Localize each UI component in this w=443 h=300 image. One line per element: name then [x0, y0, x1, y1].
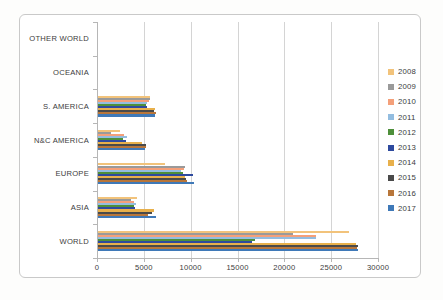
bar-group — [97, 56, 378, 90]
legend-swatch-icon — [388, 69, 394, 75]
legend-label: 2008 — [398, 67, 416, 76]
legend-swatch-icon — [388, 190, 394, 196]
x-axis-label: 25000 — [320, 263, 342, 272]
bar-group — [97, 224, 378, 258]
y-axis-tick — [93, 157, 97, 158]
bar-2017-n-c-america[interactable] — [97, 148, 145, 150]
legend-label: 2009 — [398, 82, 416, 91]
x-axis-tick — [97, 258, 98, 262]
x-axis-tick — [378, 258, 379, 262]
plot-area — [97, 22, 378, 258]
y-axis-label: EUROPE — [1, 169, 89, 178]
chart-screenshot: OTHER WORLDOCEANIAS. AMERICAN&C AMERICAE… — [0, 0, 443, 300]
legend-item-2014[interactable]: 2014 — [388, 155, 434, 170]
legend-swatch-icon — [388, 145, 394, 151]
x-axis-label: 5000 — [135, 263, 153, 272]
legend-label: 2012 — [398, 128, 416, 137]
chart-legend: 2008200920102011201220132014201520162017 — [388, 64, 434, 216]
legend-item-2015[interactable]: 2015 — [388, 170, 434, 185]
bar-2017-world[interactable] — [97, 249, 358, 251]
x-axis-tick — [238, 258, 239, 262]
legend-swatch-icon — [388, 114, 394, 120]
x-axis-label: 0 — [95, 263, 99, 272]
x-axis-label: 15000 — [226, 263, 248, 272]
legend-swatch-icon — [388, 175, 394, 181]
legend-item-2008[interactable]: 2008 — [388, 64, 434, 79]
legend-item-2013[interactable]: 2013 — [388, 140, 434, 155]
legend-item-2010[interactable]: 2010 — [388, 94, 434, 109]
bar-group — [97, 157, 378, 191]
legend-item-2012[interactable]: 2012 — [388, 125, 434, 140]
legend-swatch-icon — [388, 129, 394, 135]
x-axis-tick — [144, 258, 145, 262]
legend-label: 2013 — [398, 143, 416, 152]
x-axis-label: 30000 — [367, 263, 389, 272]
y-axis-tick — [93, 89, 97, 90]
gridline — [378, 22, 379, 258]
y-axis-tick — [93, 56, 97, 57]
legend-swatch-icon — [388, 84, 394, 90]
legend-swatch-icon — [388, 99, 394, 105]
legend-label: 2015 — [398, 173, 416, 182]
x-axis-label: 20000 — [273, 263, 295, 272]
y-axis-label: WORLD — [1, 237, 89, 246]
y-axis-label: S. AMERICA — [1, 102, 89, 111]
x-axis-tick — [284, 258, 285, 262]
bar-group — [97, 22, 378, 56]
y-axis-tick — [93, 191, 97, 192]
bar-2017-asia[interactable] — [97, 216, 156, 218]
legend-swatch-icon — [388, 160, 394, 166]
legend-swatch-icon — [388, 205, 394, 211]
y-axis-tick — [93, 22, 97, 23]
y-axis-tick — [93, 224, 97, 225]
legend-item-2016[interactable]: 2016 — [388, 186, 434, 201]
legend-label: 2010 — [398, 97, 416, 106]
y-axis-label: ASIA — [1, 203, 89, 212]
legend-label: 2014 — [398, 158, 416, 167]
x-axis-label: 10000 — [180, 263, 202, 272]
legend-item-2009[interactable]: 2009 — [388, 79, 434, 94]
y-axis-tick — [93, 123, 97, 124]
legend-item-2011[interactable]: 2011 — [388, 110, 434, 125]
y-axis-labels: OTHER WORLDOCEANIAS. AMERICAN&C AMERICAE… — [0, 22, 89, 258]
y-axis-label: OCEANIA — [1, 68, 89, 77]
legend-label: 2011 — [398, 113, 416, 122]
bar-group — [97, 191, 378, 225]
bar-group — [97, 123, 378, 157]
bar-2017-s-america[interactable] — [97, 114, 155, 116]
legend-label: 2017 — [398, 204, 416, 213]
bar-group — [97, 89, 378, 123]
y-axis-label: N&C AMERICA — [1, 136, 89, 145]
bar-2017-europe[interactable] — [97, 182, 194, 184]
x-axis-tick — [191, 258, 192, 262]
legend-item-2017[interactable]: 2017 — [388, 201, 434, 216]
y-axis-label: OTHER WORLD — [1, 34, 89, 43]
x-axis-tick — [331, 258, 332, 262]
x-axis-labels: 050001000015000200002500030000 — [0, 263, 443, 277]
y-axis-line — [97, 22, 98, 258]
legend-label: 2016 — [398, 189, 416, 198]
